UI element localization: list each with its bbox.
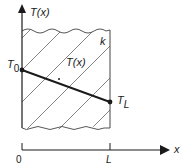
- tl-point: [108, 100, 113, 105]
- length-label: L: [106, 154, 112, 165]
- y-axis-arrow-icon: [18, 4, 26, 13]
- tl-label: TL: [117, 94, 129, 110]
- x-axis-arrow-icon: [160, 145, 170, 155]
- profile-label: T(x): [66, 56, 86, 68]
- t0-point: [20, 68, 25, 73]
- origin-label: 0: [16, 154, 22, 165]
- slab-bottom-edge: [22, 127, 110, 130]
- profile-pointer-dot: [58, 78, 60, 80]
- t0-label: T0: [7, 58, 20, 74]
- temperature-profile-line: [22, 70, 110, 102]
- x-axis-label: x: [173, 143, 180, 155]
- y-axis-label: T(x): [30, 6, 50, 18]
- conduction-diagram: T(x) x 0 L T0 TL T(x) k: [0, 0, 187, 168]
- slab-hatching: [0, 0, 187, 168]
- conductivity-label: k: [100, 35, 106, 47]
- slab-top-edge: [22, 29, 110, 33]
